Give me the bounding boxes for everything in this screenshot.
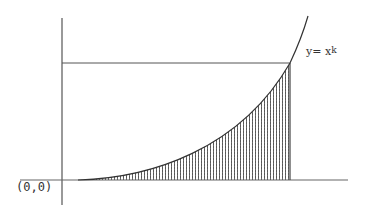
area-under-curve-diagram [0, 0, 368, 215]
curve-label: y= xk [306, 45, 337, 58]
shaded-area [78, 63, 290, 180]
curve-label-base: y= x [306, 45, 331, 58]
origin-label: (0,0) [16, 180, 52, 194]
curve-label-exponent: k [331, 45, 336, 55]
